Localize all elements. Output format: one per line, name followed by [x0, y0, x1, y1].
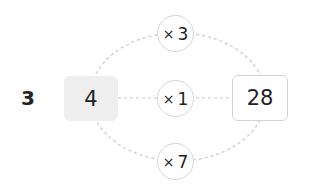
operator-factor: 7	[177, 152, 188, 172]
multiply-icon: ×	[163, 154, 175, 170]
operator-circle-middle: × 1	[157, 80, 194, 117]
operator-factor: 3	[177, 24, 188, 44]
output-value: 28	[247, 86, 274, 110]
operator-factor: 1	[177, 89, 188, 109]
row-label: 3	[21, 88, 35, 108]
input-box: 4	[64, 76, 118, 121]
output-box: 28	[232, 75, 288, 121]
input-value: 4	[84, 87, 97, 111]
multiply-icon: ×	[163, 26, 175, 42]
operator-circle-top: × 3	[157, 15, 194, 52]
multiply-icon: ×	[163, 91, 175, 107]
operator-circle-bottom: × 7	[157, 143, 194, 180]
